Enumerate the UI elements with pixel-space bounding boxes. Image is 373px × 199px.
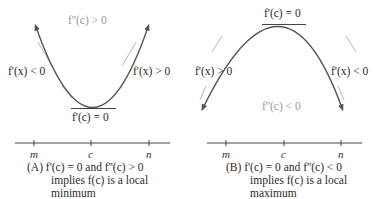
caption-b-tag: (B) <box>226 161 241 173</box>
concavity-label-a: f''(c) > 0 <box>68 15 107 27</box>
caption-b-line2: implies f(c) is a local <box>226 174 347 187</box>
caption-b-line3: maximum <box>226 187 347 199</box>
tangent-label-a: f'(c) = 0 <box>72 112 109 124</box>
axis-label-n: n <box>338 149 344 160</box>
caption-b: (B) f'(c) = 0 and f''(c) < 0 implies f(c… <box>226 161 347 199</box>
axis-label-c: c <box>88 149 93 160</box>
right-slope-label-b: f'(x) < 0 <box>331 66 368 78</box>
caption-a-line3: minimum <box>27 187 148 199</box>
axis-label-m: m <box>30 149 38 160</box>
right-slope-label-a: f'(x) > 0 <box>133 66 170 78</box>
axis-label-c: c <box>281 149 286 160</box>
left-slope-label-a: f'(x) < 0 <box>8 66 45 78</box>
caption-a: (A) f'(c) = 0 and f''(c) > 0 implies f(c… <box>27 161 148 199</box>
caption-a-line1: f'(c) = 0 and f''(c) > 0 <box>46 161 144 173</box>
parabola-min-curve <box>36 27 148 108</box>
panel-a-graph <box>15 27 170 146</box>
axis-label-n: n <box>146 149 152 160</box>
axis-label-m: m <box>222 149 230 160</box>
concavity-label-b: f''(c) < 0 <box>262 101 301 113</box>
left-slope-label-b: f'(x) > 0 <box>195 66 232 78</box>
tangent-label-b: f'(c) = 0 <box>264 8 301 20</box>
caption-a-line2: implies f(c) is a local <box>27 174 148 187</box>
caption-a-tag: (A) <box>27 161 43 173</box>
panel-b-graph <box>200 25 362 147</box>
caption-b-line1: f'(c) = 0 and f''(c) < 0 <box>244 161 342 173</box>
